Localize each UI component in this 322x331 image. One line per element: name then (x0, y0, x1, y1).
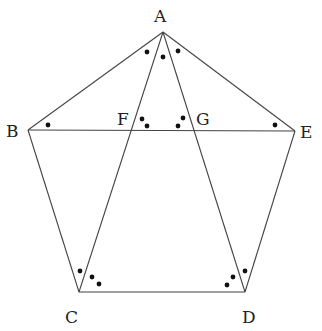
angle-dot-c (97, 282, 102, 287)
segment-bc (28, 130, 79, 292)
angle-dot-d (243, 269, 248, 274)
angle-dot-d (231, 275, 236, 280)
angle-dot-g (176, 124, 181, 129)
angle-dot-f (145, 124, 150, 129)
angle-dot-c (90, 275, 95, 280)
angle-dot-a (145, 50, 150, 55)
angle-dot-f (140, 117, 145, 122)
angle-dot-c (78, 269, 83, 274)
label-e: E (300, 122, 312, 142)
angle-dot-g (181, 116, 186, 121)
label-f: F (117, 109, 129, 129)
segment-ab (28, 32, 163, 130)
label-g: G (196, 109, 210, 129)
angle-dot-d (225, 283, 230, 288)
angle-marks-group (46, 49, 278, 288)
label-b: B (6, 121, 19, 141)
angle-dot-a (176, 49, 181, 54)
label-d: D (242, 307, 256, 327)
geometry-diagram: A B C D E F G (0, 0, 322, 331)
angle-dot-a (161, 55, 166, 60)
segment-ac (79, 32, 163, 292)
label-c: C (65, 307, 78, 327)
vertex-labels-group: A B C D E F G (6, 6, 312, 327)
segment-be (28, 130, 295, 131)
angle-dot-e (273, 123, 278, 128)
segment-ad (163, 32, 245, 292)
segments-group (28, 32, 295, 292)
angle-dot-b (46, 123, 51, 128)
segment-de (245, 131, 295, 292)
pentagon-figure: A B C D E F G (0, 0, 322, 331)
label-a: A (153, 6, 167, 26)
